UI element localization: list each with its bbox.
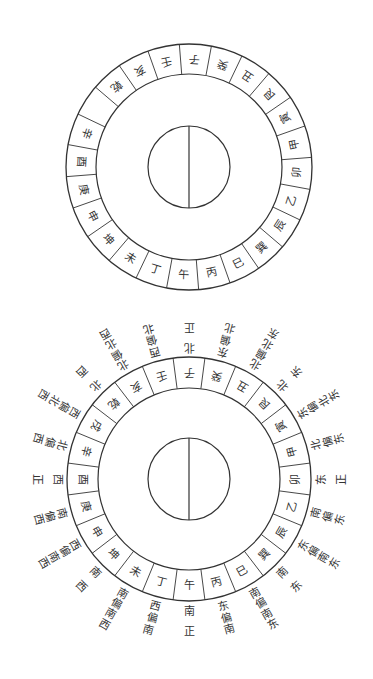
direction-label: 西偏南 — [31, 506, 70, 526]
ring-segment-label: 卯 — [290, 167, 304, 179]
segment-divider — [206, 46, 211, 75]
segment-divider — [273, 514, 302, 526]
ring-segment-label: 申 — [84, 208, 101, 224]
ring-segment-label: 壬 — [160, 54, 173, 69]
segment-divider — [224, 366, 236, 395]
segment-divider — [78, 114, 105, 127]
ring-segment-label: 辛 — [78, 126, 95, 141]
svg-text:南: 南 — [309, 506, 324, 520]
svg-text:南: 南 — [87, 564, 104, 581]
ring-segment-label: 午 — [184, 579, 195, 592]
svg-text:东: 东 — [216, 344, 230, 359]
ring-segment-label: 辰 — [273, 524, 290, 540]
direction-label: 西北偏西 — [35, 387, 83, 421]
ring-segment-label: 癸 — [209, 368, 223, 384]
ring-segment-label: 巽 — [256, 546, 273, 563]
segment-divider — [280, 184, 309, 189]
segment-divider — [68, 491, 99, 495]
svg-text:西: 西 — [73, 578, 90, 595]
direction-label: 正东 — [315, 474, 348, 485]
ring-segment-label: 丙 — [205, 265, 218, 280]
direction-label: 正西 — [31, 474, 64, 485]
ring-segment-label: 亥 — [128, 378, 145, 396]
direction-label: 东南 — [274, 564, 305, 595]
ring-segment-label: 坤 — [100, 230, 118, 248]
segment-divider — [224, 563, 236, 592]
ring-segment-label: 午 — [178, 268, 190, 282]
ring-segment-label: 未 — [122, 249, 138, 266]
ring-segment-label: 坤 — [105, 545, 123, 563]
direction-label: 西偏北 — [31, 432, 70, 452]
direction-label: 北偏西 — [142, 321, 162, 360]
svg-text:北: 北 — [87, 377, 104, 394]
svg-text:北: 北 — [54, 438, 69, 452]
ring-segment-label: 乾 — [108, 78, 125, 95]
ring-segment-label: 巳 — [230, 255, 246, 272]
direction-label: 东偏南 — [309, 506, 348, 526]
ring-segment-label: 子 — [184, 366, 195, 379]
compass-diagrams: 子癸丑艮寅甲卯乙辰巽巳丙午丁未坤申庚酉辛乾亥壬 子癸丑艮寅甲卯乙辰巽巳丙午丁未坤… — [0, 0, 373, 679]
svg-text:正: 正 — [184, 625, 195, 638]
direction-label: 东北偏北 — [247, 325, 281, 373]
ring-segment-label: 丙 — [210, 574, 224, 589]
segment-divider — [173, 358, 177, 389]
ring-segment-label: 艮 — [261, 86, 278, 103]
ring-segment-label: 甲 — [287, 138, 302, 151]
segment-divider — [73, 198, 101, 208]
ring-segment-label: 乾 — [105, 395, 122, 412]
direction-label: 正北 — [184, 321, 195, 354]
segment-divider — [66, 174, 96, 176]
ring-segment-label: 丑 — [234, 378, 250, 395]
ring-segment-label: 乙 — [284, 500, 299, 514]
ring-segment-label: 辰 — [271, 218, 288, 234]
ring-segment-label: 未 — [128, 563, 144, 580]
svg-text:南: 南 — [184, 605, 195, 618]
svg-text:西: 西 — [148, 599, 162, 614]
direction-label: 西南偏南 — [97, 585, 131, 633]
ring-segment-label: 卯 — [289, 474, 302, 485]
direction-label: 北偏东 — [216, 321, 236, 360]
segment-divider — [282, 157, 312, 159]
direction-label: 西北 — [73, 363, 104, 394]
svg-text:西: 西 — [51, 474, 64, 485]
compass-ring-labeled: 子癸丑艮寅甲卯乙辰巽巳丙午丁未坤申庚酉辛戌乾亥壬正北北偏东东北偏北东北东北偏东东… — [31, 321, 348, 638]
direction-label: 南偏西 — [142, 599, 162, 638]
ring-segment-label: 寅 — [276, 110, 293, 126]
direction-label: 东北偏东 — [295, 387, 343, 421]
segment-divider — [179, 44, 181, 74]
segment-divider — [277, 126, 305, 136]
svg-text:南: 南 — [54, 506, 69, 520]
svg-text:西: 西 — [73, 363, 90, 380]
direction-label: 正南 — [184, 605, 195, 638]
segment-divider — [279, 463, 310, 467]
svg-text:西: 西 — [148, 344, 162, 359]
ring-segment-label: 子 — [189, 52, 201, 66]
ring-segment-label: 甲 — [284, 444, 299, 458]
ring-segment-label: 酉 — [76, 474, 89, 485]
svg-text:北: 北 — [309, 438, 324, 452]
ring-segment-label: 巳 — [234, 563, 250, 580]
direction-label: 东偏北 — [309, 432, 348, 452]
compass-ring-plain: 子癸丑艮寅甲卯乙辰巽巳丙午丁未坤申庚酉辛乾亥壬 — [66, 44, 312, 290]
ring-segment-label: 丁 — [148, 262, 162, 278]
segment-divider — [68, 145, 97, 150]
ring-segment-label: 酉 — [74, 156, 88, 168]
svg-text:北: 北 — [184, 341, 195, 354]
ring-segment-label: 丁 — [154, 574, 168, 589]
svg-text:东: 东 — [288, 578, 305, 595]
svg-text:北: 北 — [274, 377, 291, 394]
segment-divider — [68, 463, 99, 467]
direction-label: 东南偏南 — [247, 585, 281, 633]
direction-label: 西北偏北 — [97, 325, 131, 373]
svg-text:正: 正 — [184, 321, 195, 334]
svg-text:东: 东 — [216, 599, 230, 614]
direction-label: 西南 — [73, 564, 104, 595]
ring-segment-label: 辛 — [78, 444, 94, 458]
svg-text:东: 东 — [315, 474, 328, 485]
segment-divider — [76, 514, 105, 526]
ring-segment-label: 戌 — [88, 418, 105, 434]
direction-label: 西南偏西 — [35, 537, 83, 571]
segment-divider — [201, 358, 205, 389]
svg-text:南: 南 — [274, 564, 291, 581]
ring-segment-label: 艮 — [256, 395, 273, 412]
